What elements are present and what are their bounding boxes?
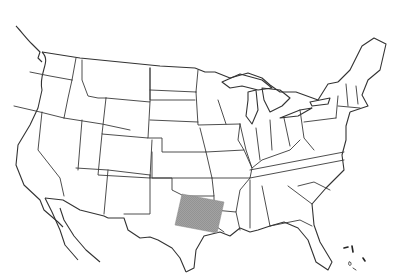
highlight-region xyxy=(175,194,224,233)
us-state-map xyxy=(0,0,399,280)
caribbean-islands xyxy=(344,246,365,270)
national-outline xyxy=(16,26,386,272)
